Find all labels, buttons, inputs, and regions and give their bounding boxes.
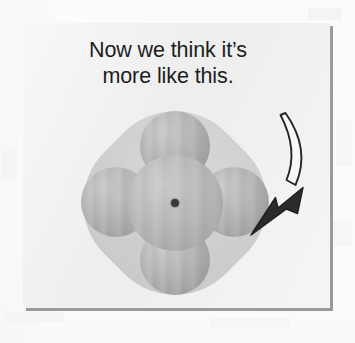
nucleus-dot [171, 199, 179, 207]
figure-caption: Now we think it’s more like this. [23, 37, 313, 89]
scan-artifact [336, 120, 352, 166]
curved-arrow [223, 101, 333, 246]
figure-panel: Now we think it’s more like this. [23, 23, 330, 308]
caption-line-2: more like this. [23, 63, 313, 89]
scan-artifact [2, 150, 16, 180]
caption-line-1: Now we think it’s [23, 37, 313, 63]
arrow-shaft [281, 113, 302, 185]
scan-artifact [308, 8, 342, 20]
scan-artifact [332, 220, 352, 246]
arrow-head [251, 188, 303, 236]
scan-artifact [4, 312, 64, 322]
scan-artifact [210, 318, 290, 327]
